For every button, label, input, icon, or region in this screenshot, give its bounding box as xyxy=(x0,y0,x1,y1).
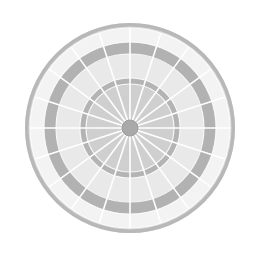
canvas-root xyxy=(0,0,258,255)
target-hub-group xyxy=(122,120,138,136)
center-hub xyxy=(122,120,138,136)
radial-target-graphic xyxy=(0,0,258,255)
